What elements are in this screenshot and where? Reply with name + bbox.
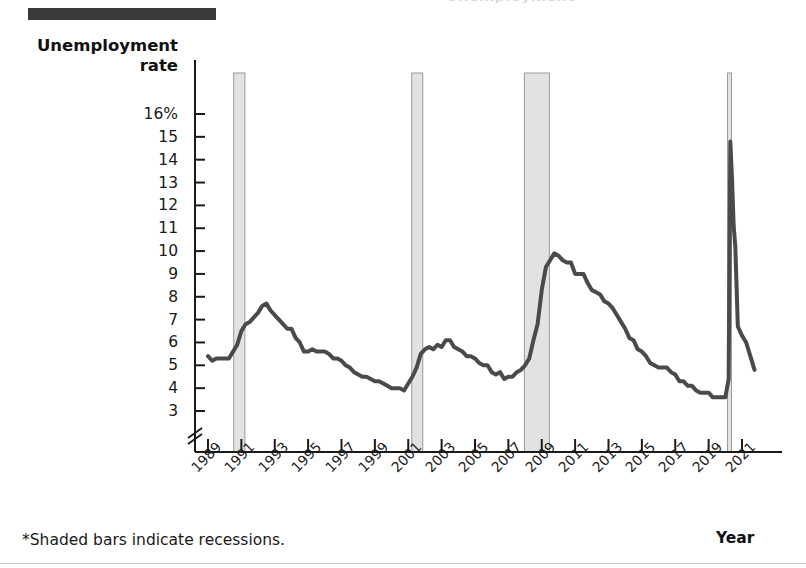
- recession-band: [412, 73, 423, 452]
- axis-lines-group: [195, 60, 782, 452]
- y-tick-label: 4: [118, 379, 178, 397]
- recession-bars-group: [234, 73, 732, 452]
- unemployment-rate-line: [208, 141, 755, 397]
- y-tick-label: 9: [118, 265, 178, 283]
- y-tick-label: 8: [118, 288, 178, 306]
- y-tick-label: 12: [118, 196, 178, 214]
- recession-band: [234, 73, 245, 452]
- chart-figure: Unemployment Unemployment rate 16%151413…: [0, 0, 806, 568]
- x-axis-title: Year: [716, 529, 754, 547]
- y-tick-label: 6: [118, 333, 178, 351]
- y-tick-label: 5: [118, 356, 178, 374]
- plot-area: [0, 0, 806, 568]
- bottom-divider: [0, 563, 806, 564]
- y-tick-label: 3: [118, 402, 178, 420]
- y-tick-label: 7: [118, 311, 178, 329]
- chart-footnote: *Shaded bars indicate recessions.: [22, 531, 285, 549]
- y-tick-label: 10: [118, 242, 178, 260]
- y-tick-label: 11: [118, 219, 178, 237]
- y-tick-marks-group: [195, 114, 205, 411]
- y-tick-label: 16%: [118, 105, 178, 123]
- recession-band: [524, 73, 549, 452]
- y-tick-label: 13: [118, 174, 178, 192]
- y-tick-label: 14: [118, 151, 178, 169]
- y-tick-label: 15: [118, 128, 178, 146]
